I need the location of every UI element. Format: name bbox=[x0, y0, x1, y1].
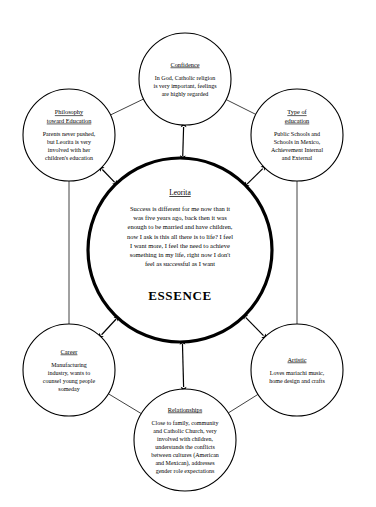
node-body-line-career: industry, wants to bbox=[48, 370, 90, 376]
node-title-confidence: Confidence bbox=[170, 61, 199, 68]
core-essence-label: ESSENCE bbox=[148, 288, 211, 303]
core-arrow-relationships bbox=[182, 344, 183, 387]
node-title-philosophy-toward-education: toward Education bbox=[47, 117, 92, 124]
node-body-line-confidence: are highly regarded bbox=[162, 91, 209, 97]
node-confidence: ConfidenceIn God, Catholic religionis ve… bbox=[139, 33, 231, 125]
core-node-essence: LeoritaSuccess is different for me now t… bbox=[88, 158, 272, 342]
node-title-artistic: Artistic bbox=[288, 356, 307, 363]
core-body-line: Success is different for me now than it bbox=[130, 205, 230, 212]
core-arrow-type-of-education bbox=[247, 169, 263, 184]
node-body-line-philosophy-toward-education: Parents never pushed, bbox=[43, 131, 96, 137]
node-body-line-relationships: involved with children, bbox=[157, 436, 213, 442]
ring-connector-philosophy-toward-education-to-confidence bbox=[110, 99, 143, 115]
core-body-line: enough to be married and have children, bbox=[128, 223, 233, 230]
node-body-line-confidence: In God, Catholic religion bbox=[155, 75, 215, 81]
ring-connector-artistic-to-relationships bbox=[228, 394, 258, 413]
node-body-line-relationships: gender role expectations bbox=[156, 468, 215, 474]
node-type-of-education: Type ofeducationPublic Schools andSchool… bbox=[251, 89, 343, 181]
core-arrow-artistic bbox=[246, 317, 264, 335]
node-career: CareerManufacturingindustry, wants tocou… bbox=[23, 324, 115, 416]
core-arrow-career bbox=[102, 319, 117, 335]
core-node-layer: LeoritaSuccess is different for me now t… bbox=[88, 158, 272, 342]
node-body-line-type-of-education: and External bbox=[282, 155, 313, 161]
node-body-line-relationships: between cultures (American bbox=[151, 452, 219, 459]
node-body-line-career: counsel young people bbox=[43, 378, 96, 384]
core-arrow-confidence bbox=[183, 127, 184, 156]
concept-map-diagram: LeoritaSuccess is different for me now t… bbox=[0, 0, 376, 507]
node-body-line-type-of-education: Achievement Internal bbox=[271, 147, 323, 153]
node-title-type-of-education: education bbox=[285, 117, 310, 124]
ring-connector-relationships-to-career bbox=[108, 394, 141, 414]
node-title-relationships: Relationships bbox=[168, 406, 203, 413]
node-body-line-relationships: understands the conflicts bbox=[155, 444, 215, 450]
core-body-line: was five years ago, back then it was bbox=[133, 214, 227, 221]
node-body-line-type-of-education: Schools in Mexico, bbox=[274, 139, 321, 145]
core-body-line: something in my life, right now I don't bbox=[130, 251, 231, 258]
core-body-line: I want more, I feel the need to achieve bbox=[130, 242, 230, 249]
node-body-line-career: Manufacturing bbox=[51, 362, 87, 368]
node-artistic: ArtisticLoves mariachi music,home design… bbox=[251, 324, 343, 416]
node-body-line-relationships: and Catholic Church, very bbox=[153, 428, 216, 434]
node-body-line-career: someday bbox=[58, 386, 79, 392]
node-body-line-relationships: and Mexican), addresses bbox=[155, 460, 215, 467]
node-body-line-artistic: home design and crafts bbox=[269, 378, 325, 384]
node-body-line-philosophy-toward-education: children's education bbox=[45, 155, 93, 161]
core-arrow-philosophy-toward-education bbox=[102, 170, 114, 183]
node-philosophy-toward-education: Philosophytoward EducationParents never … bbox=[23, 89, 115, 181]
core-title: Leorita bbox=[169, 188, 191, 197]
node-relationships: RelationshipsClose to family, communitya… bbox=[134, 389, 236, 491]
node-title-type-of-education: Type of bbox=[287, 108, 307, 115]
node-title-philosophy-toward-education: Philosophy bbox=[55, 108, 84, 115]
node-body-line-philosophy-toward-education: involved with her bbox=[48, 147, 90, 153]
node-body-line-relationships: Close to family, community bbox=[152, 420, 219, 426]
ring-connector-confidence-to-type-of-education bbox=[226, 100, 256, 115]
core-body-line: feel as successful as I want bbox=[145, 260, 215, 267]
node-body-line-artistic: Loves mariachi music, bbox=[270, 370, 325, 376]
node-body-line-type-of-education: Public Schools and bbox=[274, 131, 320, 137]
core-body-line: now I ask is this all there is to life? … bbox=[127, 233, 233, 240]
node-body-line-philosophy-toward-education: but Leorita is very bbox=[47, 139, 91, 145]
node-title-career: Career bbox=[61, 348, 79, 355]
node-body-line-confidence: is very important, feelings bbox=[154, 83, 218, 89]
diagram-canvas: LeoritaSuccess is different for me now t… bbox=[0, 0, 376, 507]
